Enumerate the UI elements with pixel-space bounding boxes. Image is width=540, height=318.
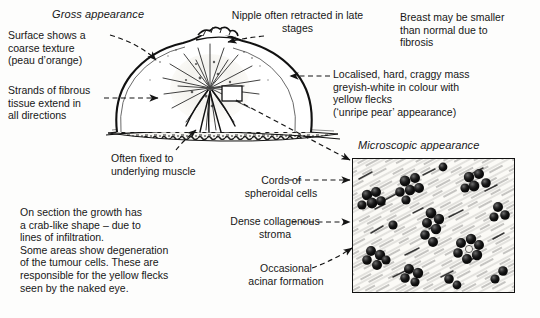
breast-cross-section-illustration — [106, 27, 340, 141]
label-surface-texture: Surface shows a coarse texture (peau d’o… — [8, 29, 86, 67]
label-craggy-mass: Localised, hard, craggy mass greyish-whi… — [333, 68, 470, 118]
histology-field-illustration — [352, 158, 515, 293]
label-fibrous-strands: Strands of fibrous tissue extend in all … — [8, 84, 90, 122]
microscopic-appearance-title: Microscopic appearance — [358, 139, 479, 151]
note-section-description: On section the growth has a crab-like sh… — [20, 206, 168, 294]
label-fixed-to-muscle: Often fixed to underlying muscle — [111, 152, 196, 177]
leader-surface-texture — [110, 35, 156, 60]
label-cords-spheroidal-cells: Cords of spheroidal cells — [222, 174, 340, 199]
leader-fixed-to-muscle — [176, 130, 196, 150]
sample-region-box — [222, 86, 242, 101]
leader-nipple — [228, 36, 264, 42]
hatched-muscle-layer — [106, 126, 340, 142]
gross-appearance-title: Gross appearance — [52, 8, 144, 20]
label-collagenous-stroma: Dense collagenous stroma — [210, 215, 340, 240]
label-acinar-formation: Occasional acinar formation — [225, 262, 347, 287]
label-nipple-retraction: Nipple often retracted in late stages — [205, 9, 390, 34]
label-breast-smaller: Breast may be smaller than normal due to… — [400, 11, 504, 49]
tumour-mass-icon — [149, 44, 269, 132]
